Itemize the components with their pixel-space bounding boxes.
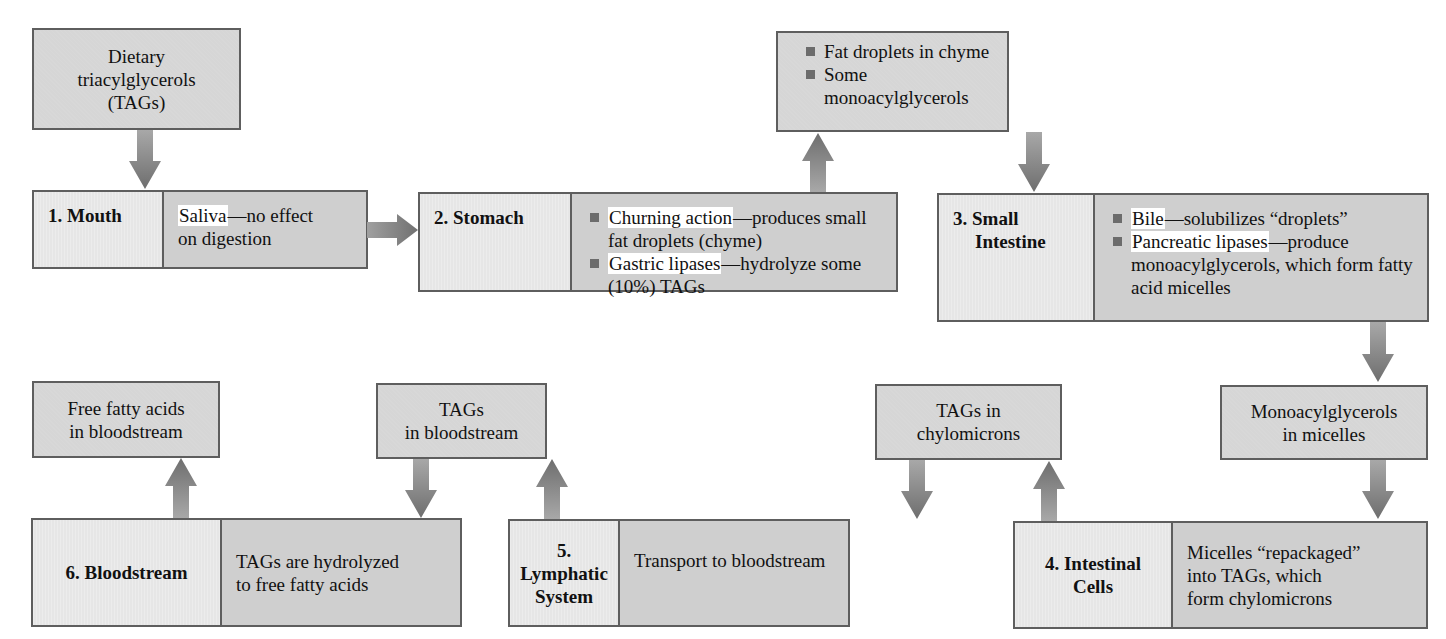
stage-bloodstream-title: 6. Bloodstream bbox=[65, 561, 187, 584]
stage-small-intestine: 3. Small Intestine Bile—solubilizes “dro… bbox=[937, 193, 1429, 322]
stage-lymphatic-title-2: System bbox=[520, 585, 608, 608]
stage-mouth-label: 1. Mouth bbox=[34, 192, 164, 267]
stage-stomach-description: Churning action—produces small fat dropl… bbox=[572, 194, 896, 290]
stage-intestinal-cells-title-2: Cells bbox=[1045, 575, 1141, 598]
highlight-churning: Churning action bbox=[608, 207, 733, 228]
chyme-bullet-1: Fat droplets in chyme bbox=[804, 40, 1007, 63]
free-fatty-acids-box: Free fatty acids in bloodstream bbox=[32, 381, 220, 458]
small-intestine-bullet-1-text: —solubilizes “droplets” bbox=[1165, 208, 1348, 229]
stage-lymphatic-title-1: 5. Lymphatic bbox=[520, 539, 608, 585]
stage-stomach: 2. Stomach Churning action—produces smal… bbox=[418, 192, 898, 292]
stomach-bullet-2: Gastric lipases—hydrolyze some (10%) TAG… bbox=[588, 252, 882, 298]
chylomicrons-line1: TAGs in bbox=[917, 399, 1020, 422]
stomach-bullet-1: Churning action—produces small fat dropl… bbox=[588, 206, 882, 252]
dietary-tags-line1: Dietary bbox=[77, 45, 195, 68]
mouth-desc-rest1: —no effect bbox=[228, 205, 314, 226]
arrow-down-icon bbox=[404, 459, 438, 519]
tags-bloodstream-line1: TAGs bbox=[405, 398, 518, 421]
stage-bloodstream: 6. Bloodstream TAGs are hydrolyzed to fr… bbox=[31, 518, 462, 627]
bloodstream-desc-line1: TAGs are hydrolyzed bbox=[236, 550, 399, 573]
dietary-tags-line3: (TAGs) bbox=[77, 91, 195, 114]
arrow-down-icon bbox=[1361, 322, 1395, 383]
stage-intestinal-cells-label: 4. Intestinal Cells bbox=[1015, 523, 1173, 627]
stage-mouth-title: 1. Mouth bbox=[48, 205, 122, 226]
free-fatty-acids-line1: Free fatty acids bbox=[67, 397, 184, 420]
lymphatic-desc-line1: Transport to bloodstream bbox=[634, 549, 825, 572]
chyme-products-box: Fat droplets in chyme Some monoacylglyce… bbox=[776, 31, 1009, 132]
small-intestine-bullet-1: Bile—solubilizes “droplets” bbox=[1111, 207, 1413, 230]
arrow-down-icon bbox=[128, 130, 162, 190]
free-fatty-acids-line2: in bloodstream bbox=[67, 420, 184, 443]
bloodstream-desc-line2: to free fatty acids bbox=[236, 573, 399, 596]
chylomicrons-box: TAGs in chylomicrons bbox=[875, 384, 1062, 460]
micelles-box: Monoacylglycerols in micelles bbox=[1220, 385, 1428, 460]
arrow-up-icon bbox=[801, 133, 835, 193]
intestinal-desc-line1: Micelles “repackaged” bbox=[1187, 541, 1361, 564]
arrow-up-icon bbox=[164, 458, 198, 519]
stage-lymphatic-system: 5. Lymphatic System Transport to bloodst… bbox=[508, 519, 850, 627]
stage-lymphatic-system-label: 5. Lymphatic System bbox=[510, 521, 620, 625]
stage-small-intestine-title-2: Intestine bbox=[953, 230, 1079, 253]
highlight-bile: Bile bbox=[1131, 208, 1165, 229]
stage-mouth: 1. Mouth Saliva—no effect on digestion bbox=[32, 190, 368, 269]
stage-intestinal-cells-title-1: 4. Intestinal bbox=[1045, 552, 1141, 575]
arrow-right-icon bbox=[367, 213, 419, 247]
small-intestine-bullet-2: Pancreatic lipases—produce monoacylglyce… bbox=[1111, 230, 1413, 299]
tags-bloodstream-line2: in bloodstream bbox=[405, 421, 518, 444]
stage-intestinal-cells-description: Micelles “repackaged” into TAGs, which f… bbox=[1173, 523, 1426, 627]
stage-lymphatic-system-description: Transport to bloodstream bbox=[620, 521, 848, 625]
arrow-down-icon bbox=[1361, 460, 1395, 520]
stage-stomach-title: 2. Stomach bbox=[434, 207, 524, 228]
highlight-saliva: Saliva bbox=[178, 205, 228, 226]
highlight-pancreatic-lipases: Pancreatic lipases bbox=[1131, 231, 1269, 252]
micelles-line1: Monoacylglycerols bbox=[1251, 400, 1398, 423]
stage-small-intestine-title-1: 3. Small bbox=[953, 207, 1079, 230]
chyme-bullet-2: Some monoacylglycerols bbox=[804, 63, 1007, 109]
arrow-down-icon bbox=[900, 460, 934, 520]
intestinal-desc-line2: into TAGs, which bbox=[1187, 564, 1361, 587]
dietary-tags-line2: triacylglycerols bbox=[77, 68, 195, 91]
stage-mouth-description: Saliva—no effect on digestion bbox=[164, 192, 366, 267]
mouth-desc-rest2: on digestion bbox=[178, 227, 352, 250]
highlight-gastric-lipases: Gastric lipases bbox=[608, 253, 721, 274]
arrow-up-icon bbox=[535, 459, 569, 520]
stage-small-intestine-label: 3. Small Intestine bbox=[939, 195, 1095, 320]
stage-intestinal-cells: 4. Intestinal Cells Micelles “repackaged… bbox=[1013, 521, 1428, 629]
micelles-line2: in micelles bbox=[1251, 423, 1398, 446]
chylomicrons-line2: chylomicrons bbox=[917, 422, 1020, 445]
stage-bloodstream-label: 6. Bloodstream bbox=[33, 520, 222, 625]
arrow-down-icon bbox=[1017, 132, 1051, 193]
stage-bloodstream-description: TAGs are hydrolyzed to free fatty acids bbox=[222, 520, 460, 625]
stage-small-intestine-description: Bile—solubilizes “droplets” Pancreatic l… bbox=[1095, 195, 1427, 320]
intestinal-desc-line3: form chylomicrons bbox=[1187, 587, 1361, 610]
stage-stomach-label: 2. Stomach bbox=[420, 194, 572, 290]
arrow-up-icon bbox=[1032, 461, 1066, 522]
tags-bloodstream-box: TAGs in bloodstream bbox=[376, 383, 547, 459]
dietary-tags-box: Dietary triacylglycerols (TAGs) bbox=[32, 28, 241, 130]
